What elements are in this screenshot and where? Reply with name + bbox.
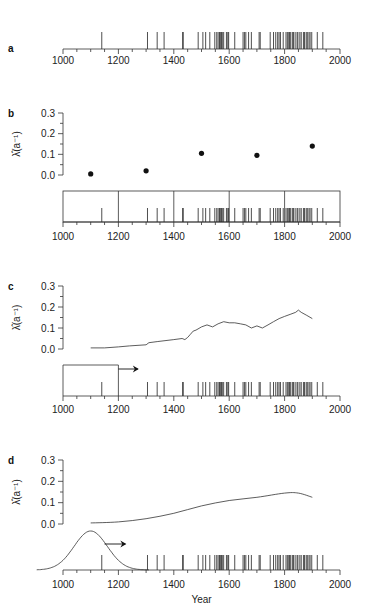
- x-tick-label: 1600: [218, 55, 241, 66]
- x-tick-label: 1600: [218, 231, 241, 242]
- x-tick-label: 1200: [107, 404, 130, 415]
- x-tick-label: 1000: [52, 55, 75, 66]
- rate-point: [310, 143, 315, 148]
- y-axis-label: λ̂(a⁻¹): [11, 479, 22, 505]
- y-tick-label: 0.1: [41, 323, 55, 334]
- panel-a: a100012001400160018002000: [8, 32, 352, 66]
- y-tick-label: 0.1: [41, 149, 55, 160]
- kernel-curve: [37, 531, 149, 570]
- y-tick-label: 0.3: [41, 281, 55, 292]
- rate-point: [144, 168, 149, 173]
- rate-point: [254, 153, 259, 158]
- x-tick-label: 1400: [163, 55, 186, 66]
- x-tick-label: 1400: [163, 579, 186, 590]
- panel-label: d: [8, 455, 14, 466]
- y-tick-label: 0.3: [41, 108, 55, 119]
- y-tick-label: 0.0: [41, 344, 55, 355]
- y-tick-label: 0.0: [41, 170, 55, 181]
- x-tick-label: 1400: [163, 231, 186, 242]
- window-box: [63, 365, 118, 396]
- panel-label: a: [8, 43, 14, 54]
- x-tick-label: 1000: [52, 579, 75, 590]
- y-axis-label: λ̂(a⁻¹): [11, 305, 22, 331]
- x-tick-label: 1800: [273, 579, 296, 590]
- figure-canvas: a1000120014001600180020000.00.10.20.3λ̂(…: [0, 0, 367, 606]
- x-tick-label: 1600: [218, 404, 241, 415]
- y-tick-label: 0.1: [41, 497, 55, 508]
- x-tick-label: 1800: [273, 404, 296, 415]
- y-tick-label: 0.2: [41, 128, 55, 139]
- x-tick-label: 2000: [329, 579, 352, 590]
- panel-d: 0.00.10.20.3λ̂(a⁻¹)d10001200140016001800…: [8, 455, 352, 606]
- x-tick-label: 2000: [329, 404, 352, 415]
- rate-curve: [91, 493, 313, 523]
- x-tick-label: 1200: [107, 55, 130, 66]
- x-axis-label: Year: [191, 594, 212, 605]
- panel-label: b: [8, 108, 14, 119]
- rate-point: [88, 171, 93, 176]
- x-tick-label: 1800: [273, 231, 296, 242]
- x-tick-label: 1200: [107, 231, 130, 242]
- x-tick-label: 1200: [107, 579, 130, 590]
- rate-point: [199, 151, 204, 156]
- x-tick-label: 1600: [218, 579, 241, 590]
- x-tick-label: 1800: [273, 55, 296, 66]
- x-tick-label: 2000: [329, 231, 352, 242]
- y-tick-label: 0.3: [41, 455, 55, 466]
- x-tick-label: 2000: [329, 55, 352, 66]
- x-tick-label: 1000: [52, 404, 75, 415]
- y-axis-label: λ̂(a⁻¹): [11, 131, 22, 157]
- panel-c: 0.00.10.20.3λ̂(a⁻¹)c10001200140016001800…: [8, 281, 352, 416]
- y-tick-label: 0.0: [41, 519, 55, 530]
- rate-curve: [91, 310, 313, 348]
- y-tick-label: 0.2: [41, 476, 55, 487]
- y-tick-label: 0.2: [41, 302, 55, 313]
- bin-box: [63, 191, 340, 222]
- panel-label: c: [8, 281, 14, 292]
- panel-b: 0.00.10.20.3λ̂(a⁻¹)b10001200140016001800…: [8, 108, 352, 243]
- x-tick-label: 1000: [52, 231, 75, 242]
- x-tick-label: 1400: [163, 404, 186, 415]
